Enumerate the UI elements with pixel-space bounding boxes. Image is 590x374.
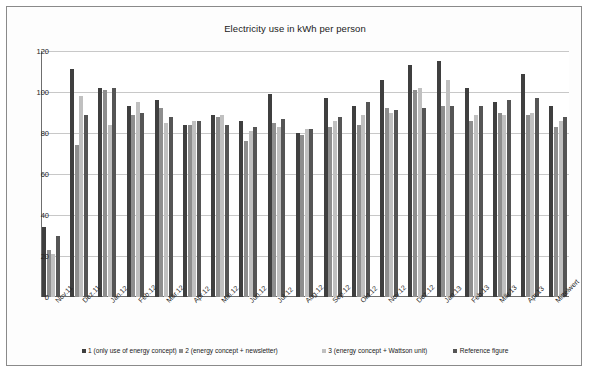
bar bbox=[164, 123, 168, 297]
bar bbox=[272, 123, 276, 297]
bar-group bbox=[239, 51, 257, 297]
bar bbox=[112, 88, 116, 297]
bar bbox=[281, 119, 285, 297]
bar bbox=[159, 108, 163, 297]
legend-item[interactable]: Reference figure bbox=[453, 347, 508, 354]
bar bbox=[75, 145, 79, 297]
bar bbox=[380, 80, 384, 297]
bar bbox=[51, 254, 55, 297]
bar bbox=[446, 80, 450, 297]
bar bbox=[183, 125, 187, 297]
bar bbox=[239, 121, 243, 297]
bar bbox=[413, 90, 417, 297]
bar-group bbox=[127, 51, 145, 297]
bar bbox=[389, 113, 393, 298]
bar bbox=[225, 125, 229, 297]
bar-group bbox=[549, 51, 567, 297]
bar bbox=[502, 115, 506, 297]
legend-swatch-icon bbox=[179, 349, 183, 353]
bar bbox=[188, 125, 192, 297]
bar-group bbox=[324, 51, 342, 297]
bar bbox=[535, 98, 539, 297]
bar bbox=[253, 127, 257, 297]
bar bbox=[554, 127, 558, 297]
legend-item[interactable]: 1 (only use of energy concept) bbox=[82, 347, 177, 354]
bar-group bbox=[408, 51, 426, 297]
bar-group bbox=[98, 51, 116, 297]
bar bbox=[474, 115, 478, 297]
bar-group bbox=[493, 51, 511, 297]
legend-swatch-icon bbox=[453, 349, 457, 353]
legend-label: 2 (energy concept + newsletter) bbox=[185, 347, 278, 354]
bar-group bbox=[437, 51, 455, 297]
bar bbox=[216, 117, 220, 297]
bar bbox=[136, 102, 140, 297]
bar bbox=[56, 236, 60, 298]
y-axis-tick-label: 20 bbox=[9, 252, 49, 261]
y-axis-tick-label: 80 bbox=[9, 129, 49, 138]
legend-item[interactable]: 2 (energy concept + newsletter) bbox=[179, 347, 278, 354]
chart-frame: Electricity use in kWh per person 020406… bbox=[6, 6, 582, 366]
bar bbox=[352, 106, 356, 297]
bar bbox=[385, 108, 389, 297]
bar bbox=[394, 110, 398, 297]
legend-item[interactable]: 3 (energy concept + Wattson unit) bbox=[322, 347, 427, 354]
y-axis-tick-label: 40 bbox=[9, 211, 49, 220]
bar bbox=[70, 69, 74, 297]
bar bbox=[559, 121, 563, 297]
bar-group bbox=[183, 51, 201, 297]
bar bbox=[103, 90, 107, 297]
bar bbox=[418, 88, 422, 297]
bar-group bbox=[211, 51, 229, 297]
bar bbox=[338, 117, 342, 297]
bar bbox=[324, 98, 328, 297]
bar-group bbox=[296, 51, 314, 297]
bar bbox=[422, 108, 426, 297]
bar bbox=[197, 121, 201, 297]
bar bbox=[155, 100, 159, 297]
x-axis-labels: Nov.11Dez.11Jan.12Feb.12Mär.12Apr.12Mai.… bbox=[41, 299, 569, 343]
bar bbox=[169, 117, 173, 297]
bar-groups bbox=[41, 51, 569, 297]
bar bbox=[465, 88, 469, 297]
chart-title: Electricity use in kWh per person bbox=[7, 23, 583, 34]
bar bbox=[305, 129, 309, 297]
bar bbox=[333, 121, 337, 297]
bar bbox=[507, 100, 511, 297]
legend-label: Reference figure bbox=[460, 347, 509, 354]
bar-group bbox=[155, 51, 173, 297]
bar bbox=[244, 141, 248, 297]
legend-swatch-icon bbox=[82, 349, 86, 353]
bar-group bbox=[268, 51, 286, 297]
bar bbox=[220, 115, 224, 297]
bar-group bbox=[352, 51, 370, 297]
bar bbox=[498, 113, 502, 298]
bar bbox=[140, 113, 144, 298]
bar-group bbox=[465, 51, 483, 297]
bar bbox=[361, 115, 365, 297]
bar bbox=[277, 127, 281, 297]
bar bbox=[366, 102, 370, 297]
legend-label: 1 (only use of energy concept) bbox=[88, 347, 177, 354]
bar bbox=[408, 65, 412, 297]
bar bbox=[108, 125, 112, 297]
bar bbox=[493, 102, 497, 297]
bar bbox=[300, 135, 304, 297]
bar-group bbox=[380, 51, 398, 297]
bar bbox=[328, 127, 332, 297]
legend-swatch-icon bbox=[322, 349, 326, 353]
bar bbox=[192, 121, 196, 297]
bar bbox=[84, 115, 88, 297]
bar bbox=[98, 88, 102, 297]
chart-legend: 1 (only use of energy concept)2 (energy … bbox=[7, 347, 583, 354]
bar-group bbox=[70, 51, 88, 297]
bar bbox=[450, 106, 454, 297]
bar bbox=[211, 115, 215, 297]
bar bbox=[479, 106, 483, 297]
bar bbox=[131, 115, 135, 297]
bar bbox=[42, 227, 46, 297]
bar bbox=[521, 74, 525, 297]
y-axis-tick-label: 120 bbox=[9, 47, 49, 56]
bar bbox=[441, 106, 445, 297]
bar bbox=[526, 115, 530, 297]
